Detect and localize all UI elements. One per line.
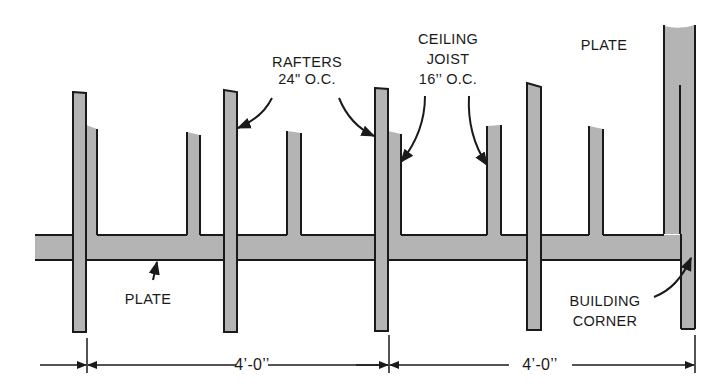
joist-arrow-left [401,96,425,162]
rafter-4 [527,83,541,330]
horizontal-plate [35,235,681,260]
corner-plate-post [664,25,695,234]
dimension-label-right: 4’-0’’ [500,356,580,373]
dimension-label-left: 4’-0’’ [212,356,292,373]
framing-diagram [0,0,719,392]
rafter-3 [375,88,388,331]
building-corner-label-line2: CORNER [560,313,650,330]
ceiling-joist-label-line3: 16’’ O.C. [408,71,488,88]
plate-bottom-label: PLATE [118,291,178,308]
rafters-label: RAFTERS 24" O.C. [262,54,352,88]
rafters-label-line2: 24" O.C. [262,71,352,88]
rafters-arrow-right [339,98,374,136]
plate-arrow [153,262,157,280]
rafter-2 [224,90,237,332]
ceiling-joist-label: CEILING JOIST 16’’ O.C. [408,31,488,88]
rafters-label-line1: RAFTERS [262,54,352,71]
building-corner-label-line1: BUILDING [560,293,650,310]
ceiling-joist-label-line2: JOIST [408,51,488,68]
building-corner-label: BUILDING CORNER [560,293,650,330]
rafters-arrow-left [238,98,272,128]
rafter-1 [73,92,86,332]
plate-top-label: PLATE [574,37,634,54]
joist-arrow-right [469,96,487,165]
ceiling-joist-label-line1: CEILING [408,31,488,48]
dimension-lines [40,335,695,373]
